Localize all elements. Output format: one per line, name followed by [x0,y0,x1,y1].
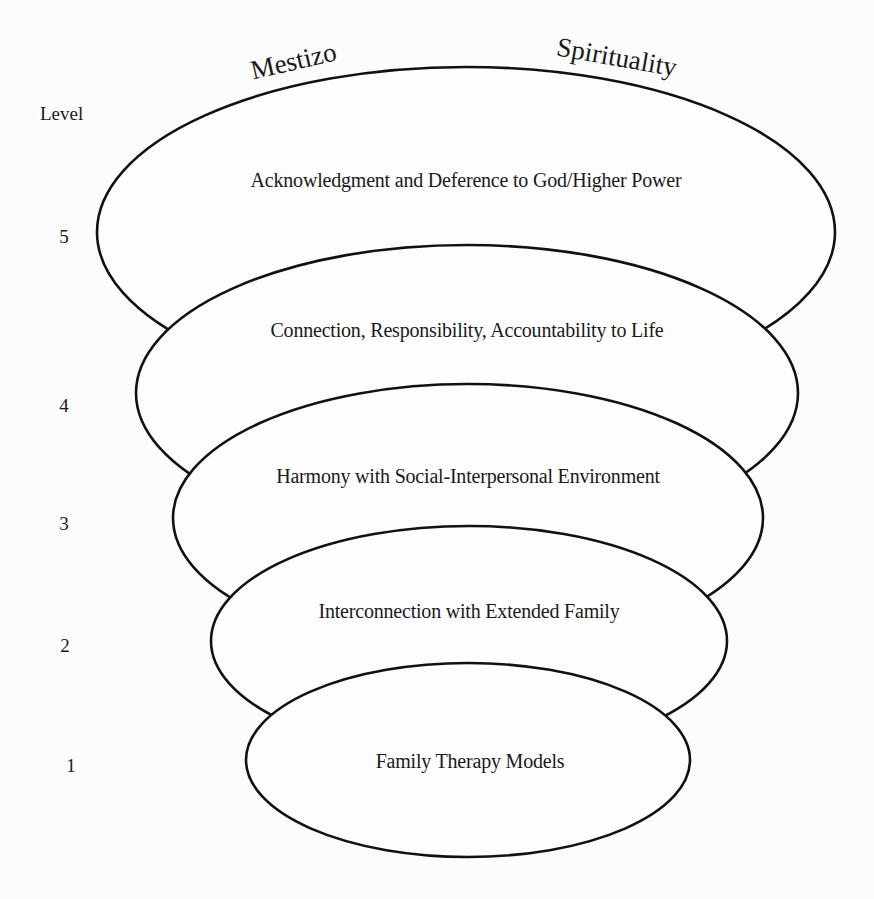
level-number-3: 3 [54,513,74,535]
page: Mestizo Spirituality Level 5 4 3 2 1 Ack… [0,0,874,899]
level-4-label: Connection, Responsibility, Accountabili… [270,319,663,342]
level-3-label: Harmony with Social-Interpersonal Enviro… [276,465,660,488]
level-number-4: 4 [54,395,74,417]
level-5-label: Acknowledgment and Deference to God/High… [251,169,682,192]
level-axis-label: Level [40,103,83,125]
level-1-label: Family Therapy Models [376,750,565,773]
level-2-label: Interconnection with Extended Family [318,600,619,623]
level-number-1: 1 [61,755,81,777]
level-number-5: 5 [54,226,74,248]
level-number-2: 2 [55,635,75,657]
